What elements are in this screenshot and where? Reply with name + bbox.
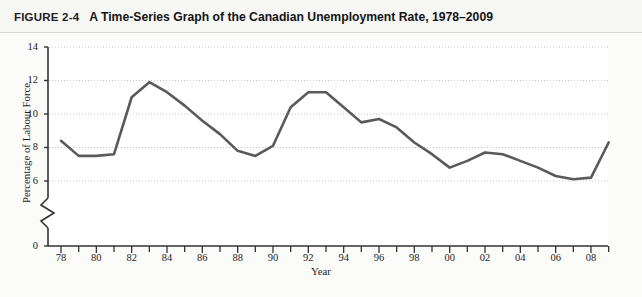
x-tick-label: 96 [367, 252, 391, 263]
chart-plot-area: 14 12 10 8 6 0 7880828486889092949698000… [0, 33, 642, 297]
x-tick-label: 80 [84, 252, 108, 263]
x-tick-label: 90 [261, 252, 285, 263]
x-tick-label: 78 [49, 252, 73, 263]
x-tick-label: 02 [473, 252, 497, 263]
figure-number-label: FIGURE 2-4 [14, 11, 79, 23]
x-tick-label: 92 [296, 252, 320, 263]
figure-title-bar: FIGURE 2-4 A Time-Series Graph of the Ca… [0, 0, 642, 33]
x-tick-label: 84 [155, 252, 179, 263]
x-tick-label: 04 [508, 252, 532, 263]
page-title: A Time-Series Graph of the Canadian Unem… [89, 10, 493, 24]
x-tick-label: 98 [402, 252, 426, 263]
figure-container: FIGURE 2-4 A Time-Series Graph of the Ca… [0, 0, 642, 297]
x-tick-label: 06 [544, 252, 568, 263]
x-tick-label: 86 [190, 252, 214, 263]
x-axis-title: Year [0, 265, 642, 277]
x-tick-label: 08 [579, 252, 603, 263]
plot-background [48, 41, 608, 246]
x-tick-label: 00 [438, 252, 462, 263]
y-tick-label-14: 14 [16, 41, 38, 52]
y-tick-label-0: 0 [16, 240, 38, 251]
x-tick-label: 88 [226, 252, 250, 263]
y-axis-title: Percentage of Labour Force [20, 73, 32, 213]
x-tick-label: 82 [120, 252, 144, 263]
x-tick-label: 94 [332, 252, 356, 263]
